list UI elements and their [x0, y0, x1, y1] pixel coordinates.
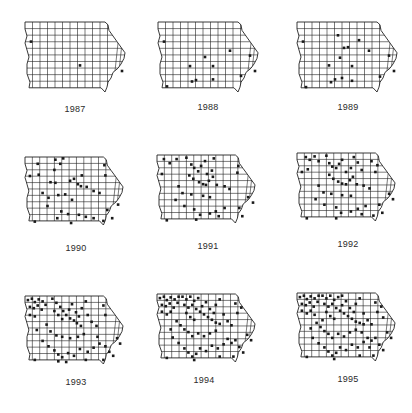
site-dot [172, 306, 175, 309]
site-dot [96, 336, 99, 339]
site-dot [370, 160, 373, 163]
site-dot [54, 182, 57, 185]
site-dot [166, 313, 169, 316]
site-dot [333, 358, 336, 361]
site-dot [199, 214, 202, 217]
site-dot [340, 212, 343, 215]
site-dot [317, 342, 320, 345]
site-dot [213, 312, 216, 315]
site-dot [36, 163, 39, 166]
site-dot [159, 297, 162, 300]
site-dot [203, 335, 206, 338]
site-dot [197, 297, 200, 300]
site-dot [393, 70, 396, 73]
site-dot [381, 212, 384, 215]
site-dot [366, 319, 369, 322]
site-dot [193, 208, 196, 211]
site-dot [355, 303, 358, 306]
site-dot [360, 169, 363, 172]
site-dot [181, 295, 184, 298]
site-dot [212, 78, 215, 81]
site-dot [77, 183, 80, 186]
site-dot [106, 209, 109, 212]
site-dot [202, 183, 205, 186]
site-dot [321, 319, 324, 322]
iowa-county-map [25, 22, 125, 92]
site-dot [49, 330, 52, 333]
site-dot [327, 350, 330, 353]
site-dot [64, 193, 67, 196]
site-dot [54, 158, 57, 161]
site-dot [40, 308, 43, 311]
site-dot [79, 64, 82, 67]
site-dot [309, 309, 312, 312]
site-dot [92, 346, 95, 349]
site-dot [374, 337, 377, 340]
site-dot [199, 310, 202, 313]
map-panel-1989 [297, 22, 397, 92]
site-dot [341, 182, 344, 185]
site-dot [188, 174, 191, 177]
site-dot [368, 187, 371, 190]
site-dot [57, 353, 60, 356]
site-dot [338, 163, 341, 166]
site-dot [168, 302, 171, 305]
site-dot [236, 171, 239, 174]
site-dot [27, 299, 30, 302]
site-dot [323, 303, 326, 306]
site-dot [301, 171, 304, 174]
site-dot [215, 210, 218, 213]
year-label: 1993 [66, 377, 87, 387]
site-dot [216, 184, 219, 187]
site-dot [34, 359, 37, 362]
site-dot [53, 169, 56, 172]
site-dot [345, 171, 348, 174]
site-dot [311, 337, 314, 340]
site-dot [195, 308, 198, 311]
site-dot [181, 192, 184, 195]
site-dot [240, 75, 243, 78]
site-dot [71, 303, 74, 306]
site-dot [317, 160, 320, 163]
site-dot [349, 307, 352, 310]
site-dot [37, 173, 40, 176]
site-dot [65, 361, 68, 364]
site-dot [211, 344, 214, 347]
site-dot [59, 163, 62, 166]
site-dot [60, 210, 63, 213]
site-dot [223, 185, 226, 188]
site-dot [309, 295, 312, 298]
site-dot [69, 337, 72, 340]
site-dot [104, 345, 107, 348]
site-dot [29, 175, 32, 178]
site-dot [204, 160, 207, 163]
site-dot [79, 348, 82, 351]
site-dot [207, 316, 210, 319]
site-dot [223, 207, 226, 210]
site-dot [29, 306, 32, 309]
site-dot [187, 331, 190, 334]
site-dot [201, 305, 204, 308]
site-dot [351, 318, 354, 321]
site-dot [308, 159, 311, 162]
site-dot [335, 206, 338, 209]
site-dot [314, 198, 317, 201]
site-dot [193, 167, 196, 170]
site-dot [55, 334, 58, 337]
site-dot [83, 333, 86, 336]
site-dot [306, 356, 309, 359]
site-dot [226, 338, 229, 341]
site-dot [355, 320, 358, 323]
site-dot [232, 355, 235, 358]
site-dot [211, 319, 214, 322]
site-dot [90, 321, 93, 324]
site-dot [169, 310, 172, 313]
year-label: 1994 [194, 375, 215, 385]
site-dot [360, 331, 363, 334]
site-dot [374, 171, 377, 174]
map-panel-1990 [25, 157, 123, 225]
site-dot [198, 181, 201, 184]
map-panel-1993 [25, 296, 123, 364]
site-dot [215, 329, 218, 332]
site-dot [217, 215, 220, 218]
